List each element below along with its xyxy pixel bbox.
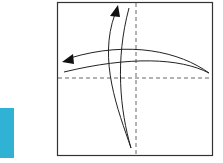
- paper-square: [58, 3, 213, 156]
- origami-diagram: [0, 0, 223, 163]
